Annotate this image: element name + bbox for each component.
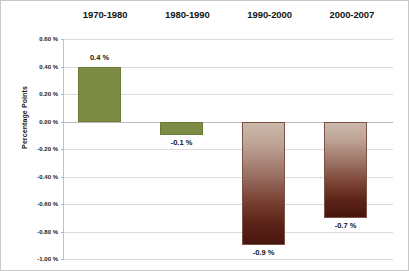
data-label-1990-2000: -0.9 % [233,248,294,257]
tickmark-1 [61,67,64,68]
bar-2000-2007 [324,122,367,218]
tickmark-2 [61,94,64,95]
y-tick-label-8: -1.00 % [6,256,58,262]
tickmark-6 [61,204,64,205]
category-label-3: 2000-2007 [311,9,393,20]
y-axis-tick-labels: 0.60 % 0.40 % 0.20 % 0.00 % -0.20 % -0.4… [1,1,64,271]
tickmark-8 [61,259,64,260]
y-tick-label-7: -0.80 % [6,229,58,235]
data-label-1970-1980: 0.4 % [69,53,130,62]
y-tick-label-0: 0.60 % [6,36,58,42]
tickmark-3 [61,122,64,123]
y-tick-label-2: 0.20 % [6,91,58,97]
tickmark-0 [61,39,64,40]
bar-1990-2000 [242,122,285,246]
tickmark-4 [61,149,64,150]
data-label-1980-1990: -0.1 % [151,138,212,147]
category-header-row: 1970-1980 1980-1990 1990-2000 2000-2007 [64,9,393,31]
gridline-7 [64,232,393,233]
category-label-1: 1980-1990 [146,9,228,20]
y-tick-label-5: -0.40 % [6,174,58,180]
tickmark-5 [61,177,64,178]
category-label-2: 1990-2000 [229,9,311,20]
y-tick-label-6: -0.60 % [6,201,58,207]
bar-chart: 1970-1980 1980-1990 1990-2000 2000-2007 … [0,0,409,271]
plot-area: 0.4 % -0.1 % -0.9 % -0.7 % [64,39,393,259]
gridline-8 [64,259,393,260]
gridline-0 [64,39,393,40]
category-label-0: 1970-1980 [64,9,146,20]
y-tick-label-4: -0.20 % [6,146,58,152]
y-tick-label-3: 0.00 % [6,119,58,125]
tickmark-7 [61,232,64,233]
data-label-2000-2007: -0.7 % [315,221,376,230]
bar-1970-1980 [78,67,121,122]
y-tick-label-1: 0.40 % [6,64,58,70]
bar-1980-1990 [160,122,203,136]
